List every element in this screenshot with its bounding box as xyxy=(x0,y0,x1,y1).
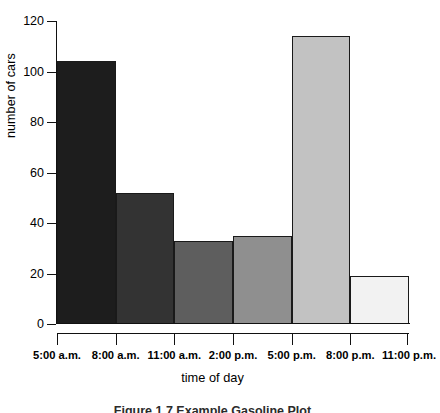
y-tick-mark xyxy=(47,324,56,325)
y-tick-mark xyxy=(47,21,56,22)
bar-series xyxy=(57,21,409,324)
y-tick-label: 60 xyxy=(10,167,44,179)
x-tick-mark xyxy=(233,334,234,345)
bar xyxy=(174,241,233,324)
x-axis-tick-labels: 5:00 a.m.8:00 a.m.11:00 a.m.2:00 p.m.5:0… xyxy=(0,348,425,364)
x-axis-ruler xyxy=(57,333,409,344)
bar xyxy=(233,236,292,324)
y-tick-label: 40 xyxy=(10,217,44,229)
x-axis-title: time of day xyxy=(0,370,425,385)
bar xyxy=(116,193,175,324)
plot-area xyxy=(57,21,409,324)
bar xyxy=(292,36,351,324)
figure-caption: Figure 1.7 Example Gasoline Plot xyxy=(0,404,425,413)
x-tick-mark xyxy=(116,334,117,345)
y-tick-mark xyxy=(47,72,56,73)
bar xyxy=(350,276,409,324)
y-tick-label: 100 xyxy=(10,66,44,78)
x-tick-mark xyxy=(350,334,351,345)
x-tick-mark xyxy=(292,334,293,345)
x-tick-mark xyxy=(57,334,58,345)
x-tick-mark xyxy=(174,334,175,345)
y-tick-label: 80 xyxy=(10,116,44,128)
y-tick-mark xyxy=(47,274,56,275)
bar xyxy=(57,61,116,324)
y-tick-mark xyxy=(47,223,56,224)
y-tick-mark xyxy=(47,173,56,174)
y-tick-label: 20 xyxy=(10,268,44,280)
x-axis-line xyxy=(56,323,410,324)
x-tick-mark xyxy=(407,334,408,345)
y-tick-mark xyxy=(47,122,56,123)
x-tick-label: 11:00 p.m. xyxy=(371,348,440,362)
y-tick-label: 120 xyxy=(10,15,44,27)
y-tick-label: 0 xyxy=(10,318,44,330)
